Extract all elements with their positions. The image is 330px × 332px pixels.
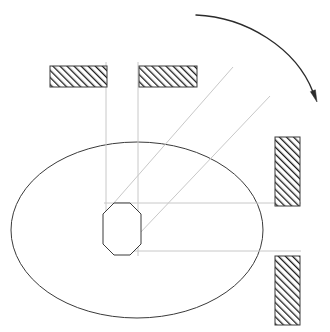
guide-diagonal-lower — [120, 96, 270, 254]
rotation-arrow-curve — [196, 15, 313, 92]
block-right-upper — [275, 137, 300, 206]
block-right-lower-hatch-fill — [275, 256, 300, 325]
technical-diagram-svg — [0, 0, 330, 332]
block-top-right-hatch-fill — [139, 66, 197, 87]
block-top-left — [50, 66, 107, 87]
rotation-arrow-head — [310, 90, 317, 102]
block-right-upper-hatch-fill — [275, 137, 300, 206]
block-top-right — [139, 66, 197, 87]
diagram-canvas — [0, 0, 330, 332]
hub-octagon — [103, 203, 141, 255]
block-right-lower — [275, 256, 300, 325]
guide-diagonal-upper — [106, 67, 233, 212]
block-top-left-hatch-fill — [50, 66, 107, 87]
